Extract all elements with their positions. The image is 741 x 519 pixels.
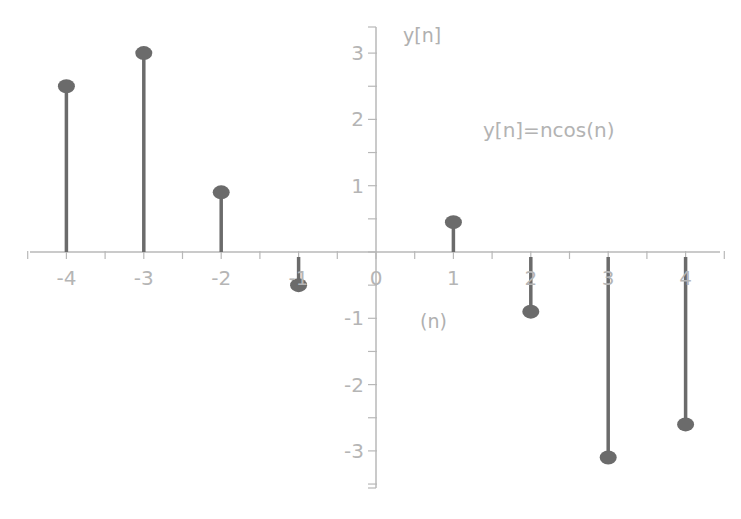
- stem-marker: [58, 79, 75, 93]
- x-tick-label: -2: [211, 266, 231, 290]
- stem-marker: [213, 185, 230, 199]
- y-tick-label: -2: [344, 373, 364, 397]
- x-tick-label: -3: [134, 266, 154, 290]
- y-tick-label: 3: [351, 41, 364, 65]
- y-tick-label: 1: [351, 174, 364, 198]
- x-tick-label: 4: [679, 266, 692, 290]
- y-tick-label: -1: [344, 306, 364, 330]
- y-tick-label: -3: [344, 439, 364, 463]
- stem-chart: -4-3-2-101234321-1-2-3 y[n] (n) y[n]=nco…: [0, 0, 741, 519]
- stem-marker: [522, 305, 539, 319]
- chart-formula: y[n]=ncos(n): [483, 118, 614, 142]
- stem-marker: [600, 451, 617, 465]
- x-tick-label: 0: [370, 266, 383, 290]
- y-tick-label: 2: [351, 107, 364, 131]
- x-tick-label: 3: [602, 266, 615, 290]
- axes: [28, 27, 725, 488]
- x-tick-label: 2: [524, 266, 537, 290]
- y-axis-title: y[n]: [403, 24, 441, 46]
- x-tick-label: -4: [56, 266, 76, 290]
- x-axis-title: (n): [420, 310, 447, 332]
- x-tick-label: -1: [289, 266, 309, 290]
- stem-marker: [677, 417, 694, 431]
- stem-marker: [445, 215, 462, 229]
- x-tick-label: 1: [447, 266, 460, 290]
- stem-marker: [135, 46, 152, 60]
